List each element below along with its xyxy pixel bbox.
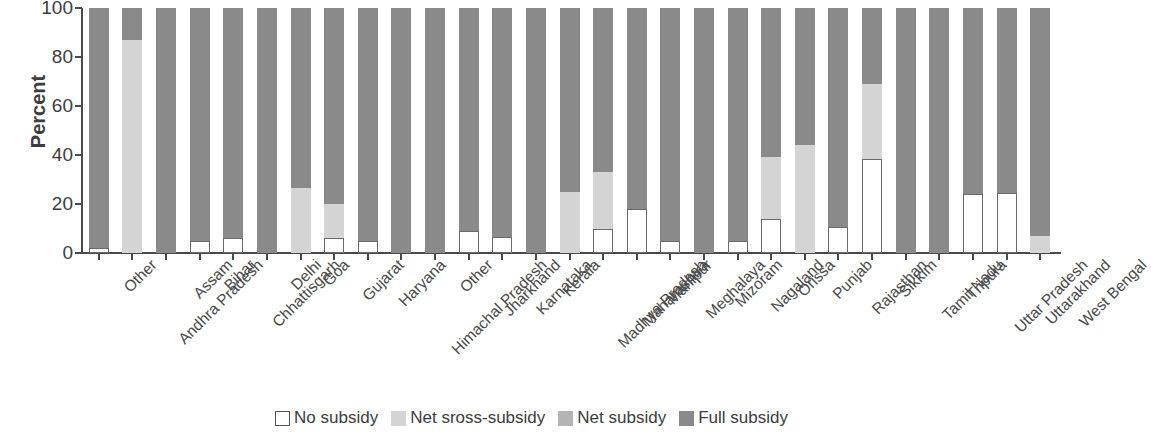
bar-segment — [190, 241, 210, 253]
legend-swatch-icon — [679, 411, 694, 426]
bar[interactable] — [929, 8, 949, 253]
x-tick-label: Punjab — [829, 256, 876, 303]
bar-segment — [122, 40, 142, 253]
bar[interactable] — [425, 8, 445, 253]
y-tick-mark — [75, 105, 82, 107]
bar[interactable] — [190, 8, 210, 253]
bar-segment — [660, 241, 680, 253]
legend-item[interactable]: Net subsidy — [558, 408, 666, 428]
bar-segment — [997, 8, 1017, 193]
bar-segment — [291, 188, 311, 253]
bar-segment — [358, 241, 378, 253]
bar[interactable] — [660, 8, 680, 253]
x-tick-label: Other — [120, 256, 160, 296]
bar-segment — [828, 227, 848, 253]
bar[interactable] — [89, 8, 109, 253]
bar[interactable] — [324, 8, 344, 253]
legend-item[interactable]: No subsidy — [275, 408, 378, 428]
legend-item[interactable]: Net sross-subsidy — [391, 408, 545, 428]
bar-segment — [1030, 8, 1050, 236]
bar[interactable] — [526, 8, 546, 253]
bar[interactable] — [391, 8, 411, 253]
bar-segment — [560, 8, 580, 192]
legend-swatch-icon — [391, 411, 406, 426]
bar[interactable] — [291, 8, 311, 253]
bar-segment — [828, 8, 848, 227]
bar-segment — [122, 8, 142, 40]
y-tick-mark — [75, 252, 82, 254]
y-tick-label: 20 — [52, 193, 73, 215]
bar[interactable] — [560, 8, 580, 253]
y-tick-label: 100 — [41, 0, 73, 19]
bar-segment — [795, 8, 815, 145]
bar[interactable] — [694, 8, 714, 253]
bar[interactable] — [122, 8, 142, 253]
bar[interactable] — [997, 8, 1017, 253]
legend-swatch-icon — [558, 411, 573, 426]
bar-segment — [560, 192, 580, 253]
bar[interactable] — [459, 8, 479, 253]
bar-segment — [257, 8, 277, 253]
chart-legend: No subsidyNet sross-subsidyNet subsidyFu… — [0, 408, 1063, 428]
bar-segment — [526, 8, 546, 253]
bar-segment — [291, 8, 311, 188]
bar[interactable] — [828, 8, 848, 253]
bar-segment — [358, 8, 378, 241]
y-axis-title: Percent — [27, 32, 50, 192]
legend-label: Full subsidy — [698, 408, 788, 428]
bar[interactable] — [1030, 8, 1050, 253]
bar[interactable] — [156, 8, 176, 253]
bar-segment — [156, 8, 176, 253]
bar-segment — [459, 8, 479, 231]
bar[interactable] — [896, 8, 916, 253]
legend-item[interactable]: Full subsidy — [679, 408, 788, 428]
bar-segment — [728, 8, 748, 241]
legend-label: No subsidy — [294, 408, 378, 428]
y-tick-mark — [75, 203, 82, 205]
bar-segment — [492, 8, 512, 237]
bar-segment — [223, 8, 243, 238]
bar[interactable] — [728, 8, 748, 253]
bar-segment — [1030, 236, 1050, 253]
bar-segment — [324, 238, 344, 253]
y-tick-mark — [75, 56, 82, 58]
bar-segment — [459, 231, 479, 253]
legend-swatch-icon — [275, 411, 290, 426]
bar-segment — [627, 209, 647, 253]
bar-segment — [963, 194, 983, 253]
legend-label: Net subsidy — [577, 408, 666, 428]
bar-segment — [761, 219, 781, 253]
bar[interactable] — [257, 8, 277, 253]
bar[interactable] — [761, 8, 781, 253]
bar[interactable] — [223, 8, 243, 253]
bar-segment — [694, 8, 714, 253]
bar-segment — [929, 8, 949, 253]
x-axis-labels: OtherAndhra PradeshAssamBiharChhattisgar… — [82, 256, 1057, 376]
bar-segment — [660, 8, 680, 241]
bar-segment — [896, 8, 916, 253]
bar[interactable] — [795, 8, 815, 253]
y-tick-mark — [75, 154, 82, 156]
bar[interactable] — [593, 8, 613, 253]
bar-segment — [728, 241, 748, 253]
bar-segment — [593, 172, 613, 228]
y-tick-label: 60 — [52, 95, 73, 117]
bar-segment — [627, 8, 647, 209]
bar-segment — [862, 8, 882, 84]
plot-area: 020406080100 — [82, 8, 1057, 253]
y-tick-label: 0 — [62, 242, 73, 264]
bar-segment — [795, 145, 815, 253]
bar-segment — [862, 159, 882, 253]
bar[interactable] — [492, 8, 512, 253]
bar-segment — [492, 237, 512, 253]
bar[interactable] — [862, 8, 882, 253]
bar[interactable] — [963, 8, 983, 253]
bar[interactable] — [627, 8, 647, 253]
bar-segment — [761, 8, 781, 157]
bar-segment — [223, 238, 243, 253]
bar[interactable] — [358, 8, 378, 253]
bar-segment — [425, 8, 445, 253]
bar-segment — [391, 8, 411, 253]
x-tick-label: Other — [456, 256, 496, 296]
